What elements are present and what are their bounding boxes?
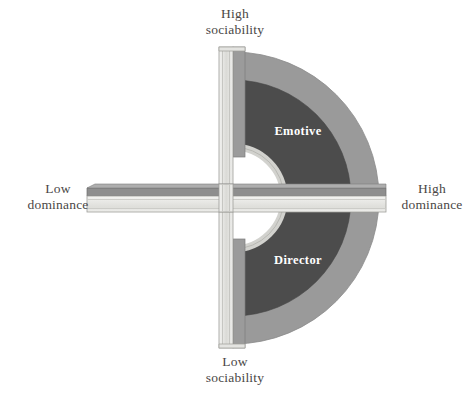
region-label-director: Director: [238, 253, 358, 268]
axis-label-low-dominance: Low dominance: [10, 181, 106, 214]
axis-label-low-sociability-line1: Low: [185, 354, 285, 370]
axis-label-high-dominance: High dominance: [392, 181, 467, 214]
axis-label-low-sociability-line2: sociability: [185, 370, 285, 386]
axis-label-high-sociability-line2: sociability: [185, 22, 285, 38]
axis-label-low-dominance-line1: Low: [10, 181, 106, 197]
axis-label-high-sociability: High sociability: [185, 6, 285, 39]
axis-label-high-dominance-line2: dominance: [392, 197, 467, 213]
axis-label-high-dominance-line1: High: [392, 181, 467, 197]
axis-label-low-sociability: Low sociability: [185, 354, 285, 387]
axis-label-low-dominance-line2: dominance: [10, 197, 106, 213]
axis-intersection-hub: [219, 184, 233, 212]
dominance-axis-bar: [87, 184, 386, 212]
region-label-emotive: Emotive: [238, 124, 358, 139]
axis-label-high-sociability-line1: High: [185, 6, 285, 22]
